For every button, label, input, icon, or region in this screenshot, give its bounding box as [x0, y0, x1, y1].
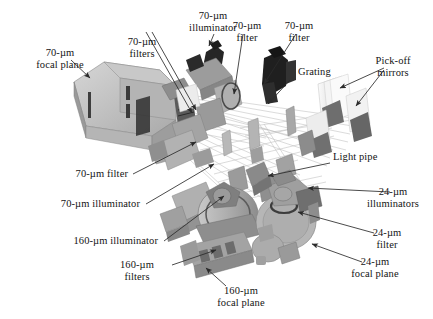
label-light-pipe: Light pipe — [333, 151, 377, 163]
label-focal-plane-160-line1: 160-µm — [196, 285, 286, 297]
label-grating: Grating — [298, 66, 331, 78]
label-illuminators-24-line2: illuminators — [354, 198, 432, 210]
label-filters-70-top: 70-µm filters — [102, 36, 182, 59]
label-pick-off-mirrors: Pick-off mirrors — [356, 55, 430, 78]
label-filter-24-line1: 24-µm — [356, 227, 418, 239]
label-focal-plane-70-left-line1: 70-µm — [14, 47, 106, 59]
label-pick-off-mirrors-line1: Pick-off — [356, 55, 430, 67]
label-focal-plane-70-left-line2: focal plane — [14, 59, 106, 71]
grating-structure — [262, 46, 296, 104]
label-focal-plane-70-left: 70-µm focal plane — [14, 47, 106, 70]
label-illuminator-160-line1: 160-µm illuminator — [32, 235, 158, 247]
label-filters-160-line2: filters — [104, 271, 170, 283]
label-filter-70-mid: 70-µm filter — [28, 168, 128, 180]
label-filter-70-topright: 70-µm filter — [268, 20, 330, 43]
label-filter-24-line2: filter — [356, 239, 418, 251]
label-filters-70-top-line2: filters — [102, 48, 182, 60]
label-focal-plane-160-line2: focal plane — [196, 297, 286, 309]
label-illuminator-70-mid-line1: 70-µm illuminator — [22, 198, 140, 210]
label-focal-plane-160: 160-µm focal plane — [196, 285, 286, 308]
label-illuminators-24: 24-µm illuminators — [354, 186, 432, 209]
label-filters-70-top-line1: 70-µm — [102, 36, 182, 48]
label-light-pipe-line1: Light pipe — [333, 151, 377, 163]
label-filters-160: 160-µm filters — [104, 259, 170, 282]
label-illuminator-70-mid: 70-µm illuminator — [22, 198, 140, 210]
figure-canvas: 70-µm focal plane 70-µm filters 70-µm il… — [0, 0, 433, 319]
label-pick-off-mirrors-line2: mirrors — [356, 67, 430, 79]
label-filters-160-line1: 160-µm — [104, 259, 170, 271]
label-filter-24: 24-µm filter — [356, 227, 418, 250]
pick-off-mirrors-structure — [306, 74, 372, 158]
label-filter-70-topright-line2: filter — [268, 32, 330, 44]
leader-filter-70-topmid — [234, 34, 243, 94]
label-filter-70-topright-line1: 70-µm — [268, 20, 330, 32]
label-grating-line1: Grating — [298, 66, 331, 78]
label-illuminators-24-line1: 24-µm — [354, 186, 432, 198]
label-focal-plane-24-line2: focal plane — [330, 268, 420, 280]
label-focal-plane-24: 24-µm focal plane — [330, 256, 420, 279]
label-focal-plane-24-line1: 24-µm — [330, 256, 420, 268]
label-illuminator-160: 160-µm illuminator — [32, 235, 158, 247]
label-filter-70-mid-line1: 70-µm filter — [28, 168, 128, 180]
